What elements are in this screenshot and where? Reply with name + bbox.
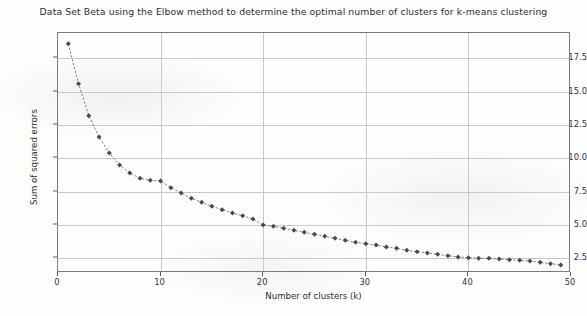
data-point-marker: [435, 252, 440, 257]
data-point-marker: [97, 135, 102, 140]
series-line: [68, 44, 560, 265]
x-tick-mark: [365, 272, 366, 276]
data-point-marker: [66, 41, 71, 46]
data-point-marker: [456, 255, 461, 260]
data-point-marker: [250, 217, 255, 222]
data-point-marker: [76, 81, 81, 86]
data-point-marker: [271, 224, 276, 229]
data-point-marker: [86, 113, 91, 118]
data-point-marker: [527, 259, 532, 264]
x-tick-label: 50: [565, 277, 576, 287]
data-point-marker: [209, 204, 214, 209]
x-tick-mark: [160, 272, 161, 276]
data-point-marker: [384, 245, 389, 250]
data-point-marker: [558, 263, 563, 268]
x-axis-label: Number of clusters (k): [57, 291, 570, 301]
data-point-marker: [312, 232, 317, 237]
plot-area: [57, 32, 570, 272]
x-tick-mark: [570, 272, 571, 276]
x-tick-label: 0: [54, 277, 59, 287]
data-point-marker: [538, 260, 543, 265]
data-point-marker: [127, 171, 132, 176]
data-point-marker: [322, 234, 327, 239]
x-tick-label: 40: [462, 277, 473, 287]
data-point-marker: [199, 200, 204, 205]
data-point-marker: [230, 211, 235, 216]
data-point-marker: [302, 230, 307, 235]
data-point-marker: [404, 248, 409, 253]
data-point-marker: [548, 261, 553, 266]
data-point-marker: [353, 240, 358, 245]
x-tick-label: 20: [257, 277, 268, 287]
data-point-marker: [117, 163, 122, 168]
data-point-marker: [425, 251, 430, 256]
x-tick-mark: [262, 272, 263, 276]
data-point-marker: [497, 257, 502, 262]
data-point-marker: [476, 256, 481, 261]
data-point-marker: [466, 255, 471, 260]
x-tick-label: 10: [154, 277, 165, 287]
data-point-marker: [138, 176, 143, 181]
data-point-marker: [343, 238, 348, 243]
data-point-marker: [220, 207, 225, 212]
chart-figure: Data Set Beta using the Elbow method to …: [0, 0, 587, 316]
data-point-marker: [445, 253, 450, 258]
data-point-marker: [507, 257, 512, 262]
data-point-marker: [333, 236, 338, 241]
data-point-marker: [486, 256, 491, 261]
y-axis-label: Sum of squared errors: [29, 77, 39, 237]
x-tick-label: 30: [359, 277, 370, 287]
x-tick-mark: [467, 272, 468, 276]
data-point-marker: [374, 243, 379, 248]
data-point-marker: [240, 213, 245, 218]
data-point-marker: [158, 179, 163, 184]
data-point-marker: [517, 258, 522, 263]
data-series-line: [58, 33, 570, 272]
data-point-marker: [189, 196, 194, 201]
data-point-marker: [261, 223, 266, 228]
chart-title: Data Set Beta using the Elbow method to …: [0, 6, 587, 17]
data-point-marker: [394, 246, 399, 251]
data-point-marker: [179, 191, 184, 196]
data-point-marker: [168, 185, 173, 190]
data-point-marker: [148, 178, 153, 183]
data-point-marker: [291, 228, 296, 233]
data-point-marker: [415, 249, 420, 254]
x-tick-mark: [57, 272, 58, 276]
data-point-marker: [281, 226, 286, 231]
data-point-marker: [363, 241, 368, 246]
